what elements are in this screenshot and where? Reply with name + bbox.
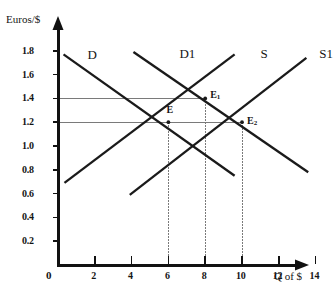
y-tick-label-0.6: 0.6 [22, 189, 34, 199]
point-label-E: E [166, 105, 173, 115]
x-tick-label-4: 4 [128, 271, 133, 281]
y-tick-label-0.2: 0.2 [22, 236, 34, 246]
marker-E [167, 120, 171, 124]
y-axis-title: Euros/$ [6, 14, 40, 25]
curve-label-D: D [87, 48, 96, 61]
point-label-E2: E2 [247, 116, 257, 126]
y-tick-label-0.4: 0.4 [22, 212, 34, 222]
curve-label-D1: D1 [179, 47, 195, 60]
caption-fragment [0, 292, 328, 301]
y-tick-label-1.2: 1.2 [22, 117, 34, 127]
point-label-E1: E1 [210, 90, 220, 100]
x-tick-label-12: 12 [273, 271, 283, 281]
origin-label: 0 [46, 270, 52, 281]
marker-E2 [240, 120, 244, 124]
x-tick-label-8: 8 [202, 271, 207, 281]
marker-E1 [203, 97, 207, 101]
curve-lines-group [64, 52, 309, 195]
curve-label-S: S [260, 47, 267, 60]
y-tick-label-1.8: 1.8 [22, 46, 34, 56]
x-tick-label-6: 6 [165, 271, 170, 281]
y-tick-label-0.8: 0.8 [22, 165, 34, 175]
y-axis-arrowhead [53, 16, 64, 30]
x-axis-arrowhead [295, 260, 309, 271]
y-tick-label-1.0: 1.0 [22, 141, 34, 151]
x-tick-label-2: 2 [91, 271, 96, 281]
y-tick-label-1.4: 1.4 [22, 93, 34, 103]
x-tick-label-10: 10 [236, 271, 246, 281]
x-tick-label-14: 14 [310, 271, 320, 281]
curve-S1 [130, 58, 307, 195]
guide-lines-group [58, 98, 242, 265]
y-tick-label-1.6: 1.6 [22, 70, 34, 80]
curve-label-S1: S1 [319, 47, 333, 60]
